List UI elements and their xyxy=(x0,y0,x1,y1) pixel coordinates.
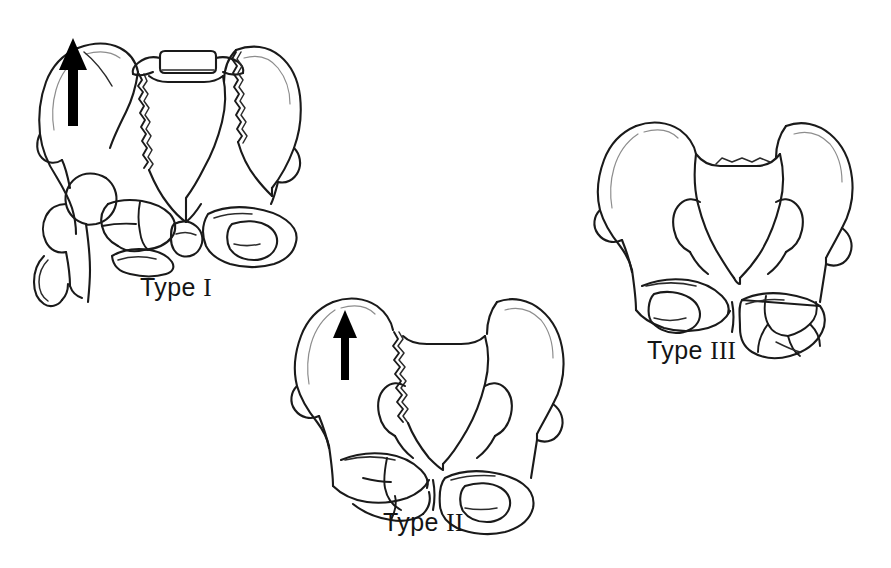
panel-label-type-1: Type I xyxy=(140,275,212,300)
pelvis-drawing-type-2 xyxy=(275,282,595,540)
panel-label-numeral: I xyxy=(203,274,212,301)
panel-label-word: Type xyxy=(647,336,703,364)
panel-type-1: Type I xyxy=(8,18,338,308)
panel-label-numeral: II xyxy=(446,509,463,536)
panel-label-word: Type xyxy=(383,508,439,536)
pelvis-drawing-type-1 xyxy=(8,18,338,308)
panel-type-3: Type III xyxy=(580,104,882,364)
panel-label-type-3: Type III xyxy=(647,338,736,363)
panel-type-2: Type II xyxy=(275,282,595,540)
displacement-arrow-type-2 xyxy=(333,310,357,380)
pelvis-drawing-type-3 xyxy=(580,104,882,364)
panel-label-numeral: III xyxy=(710,337,736,364)
panel-label-type-2: Type II xyxy=(383,510,464,535)
displacement-arrow-type-1 xyxy=(59,38,87,126)
figure-canvas: Type I xyxy=(0,0,891,568)
panel-label-word: Type xyxy=(140,273,196,301)
